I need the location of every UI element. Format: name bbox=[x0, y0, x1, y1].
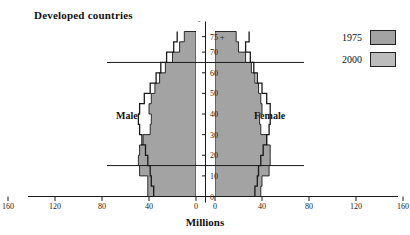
age-tick-label-40: 40 bbox=[210, 110, 218, 119]
legend-swatch-1975 bbox=[370, 30, 396, 45]
x-axis-title: Millions bbox=[0, 216, 410, 228]
age-tick-label-10: 10 bbox=[210, 171, 218, 180]
age-tick-label-50: 50 bbox=[210, 89, 218, 98]
x-left-40-label: 40 bbox=[139, 202, 159, 211]
x-left-120-label: 120 bbox=[45, 202, 65, 211]
x-right-120-label: 120 bbox=[346, 202, 366, 211]
male-side-label: Male bbox=[116, 110, 138, 121]
x-right-0-label: 0 bbox=[205, 202, 225, 211]
x-left-80-label: 80 bbox=[92, 202, 112, 211]
legend-label: 2000 bbox=[330, 54, 362, 65]
age-tick-label-60: 60 bbox=[210, 68, 218, 77]
x-right-160-label: 160 bbox=[393, 202, 410, 211]
legend-item: 1975 bbox=[330, 26, 396, 48]
age-tick-label-70: 70 bbox=[210, 48, 218, 57]
chart-legend: 1975 2000 bbox=[330, 26, 396, 70]
legend-item: 2000 bbox=[330, 48, 396, 70]
age-tick-label-20: 20 bbox=[210, 151, 218, 160]
population-pyramid-chart: Developed countries Age Male Female Mill… bbox=[0, 0, 410, 235]
age-tick-label-75plus: 75 + bbox=[210, 32, 225, 41]
age-tick-label-0: 0 bbox=[210, 192, 214, 201]
x-right-80-label: 80 bbox=[299, 202, 319, 211]
legend-swatch-2000 bbox=[370, 52, 396, 67]
x-left-0-label: 0 bbox=[186, 202, 206, 211]
x-right-40-label: 40 bbox=[252, 202, 272, 211]
x-left-160-label: 160 bbox=[0, 202, 18, 211]
age-tick-label-30: 30 bbox=[210, 130, 218, 139]
legend-label: 1975 bbox=[330, 32, 362, 43]
female-side-label: Female bbox=[254, 110, 285, 121]
